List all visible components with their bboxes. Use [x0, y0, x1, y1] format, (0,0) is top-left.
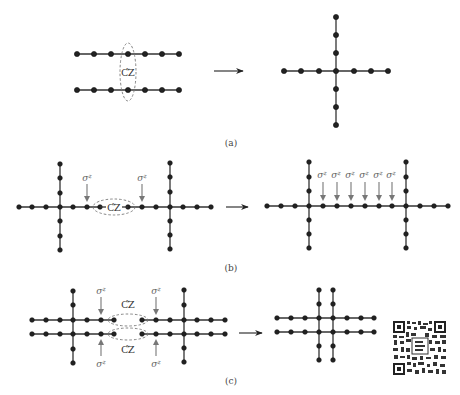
panel-c-label: (c)	[225, 376, 237, 386]
cz-gate-label: C͂Z	[121, 67, 135, 78]
figure-canvas: C͂Z (a)	[0, 0, 460, 395]
cz-gate-label: C͂Z	[107, 202, 121, 213]
panel-a-label: (a)	[225, 138, 237, 148]
panel-c: C͂Z C͂Z σz σz σz σz	[30, 285, 447, 386]
svg-text:σz: σz	[151, 358, 161, 369]
svg-text:σz: σz	[82, 172, 92, 183]
cz-gate-label-top: C͂Z	[121, 299, 135, 310]
svg-text:σz: σz	[386, 169, 396, 180]
svg-text:σz: σz	[373, 169, 383, 180]
panel-c-right	[275, 288, 377, 363]
panel-b: C͂Z σz σz	[17, 160, 451, 273]
svg-text:σz: σz	[345, 169, 355, 180]
sigma-z-measurement: σz	[151, 339, 161, 369]
svg-text:σz: σz	[359, 169, 369, 180]
panel-b-label: (b)	[225, 263, 238, 273]
sigma-z-measurement: σz	[96, 285, 106, 315]
svg-text:σz: σz	[96, 285, 106, 296]
panel-a-left-chains: C͂Z	[74, 43, 181, 101]
sigma-z-measurement: σz	[82, 172, 92, 202]
svg-text:σz: σz	[96, 358, 106, 369]
sigma-z-measurements-row: σz σz σz σz σz σz	[317, 169, 396, 201]
sigma-z-measurement: σz	[137, 172, 147, 202]
svg-text:σz: σz	[331, 169, 341, 180]
panel-b-left: C͂Z σz σz	[17, 161, 214, 253]
sigma-z-measurement: σz	[151, 285, 161, 315]
qr-code-icon	[392, 320, 447, 376]
panel-c-left: C͂Z C͂Z σz σz σz σz	[30, 285, 228, 369]
svg-text:σz: σz	[317, 169, 327, 180]
cz-gate-label-bottom: C͂Z	[121, 344, 135, 355]
svg-text:σz: σz	[151, 285, 161, 296]
panel-b-right: σz σz σz σz σz σz	[265, 160, 451, 251]
panel-a-right-cross	[281, 14, 390, 127]
panel-a: C͂Z (a)	[74, 14, 390, 148]
sigma-z-measurement: σz	[96, 339, 106, 369]
svg-text:σz: σz	[137, 172, 147, 183]
